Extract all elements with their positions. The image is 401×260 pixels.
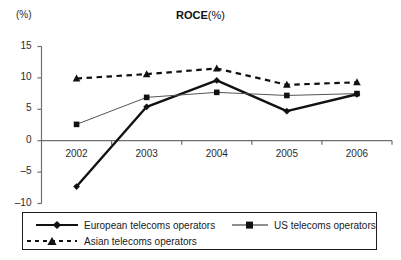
x-tick-label: 2002	[54, 148, 100, 159]
legend-item-us: US telecoms operators	[231, 218, 376, 232]
y-tick-label: –5	[6, 165, 32, 176]
legend-swatch-european-line-diamond-icon	[35, 219, 79, 231]
legend-label-asian: Asian telecoms operators	[84, 236, 197, 247]
plot-area	[0, 0, 401, 212]
data-point-marker	[74, 122, 80, 128]
x-tick-label: 2003	[124, 148, 170, 159]
y-tick-label: 5	[6, 102, 32, 113]
data-point-marker	[354, 91, 360, 97]
data-point-marker	[284, 93, 290, 99]
data-point-marker	[283, 108, 290, 115]
x-tick-label: 2004	[194, 148, 240, 159]
legend-label-us: US telecoms operators	[274, 220, 376, 231]
data-point-marker	[213, 77, 220, 84]
y-tick-label: 0	[6, 134, 32, 145]
legend-item-european: European telecoms operators	[35, 218, 215, 232]
y-tick-label: 10	[6, 71, 32, 82]
data-series	[73, 64, 361, 189]
legend-item-asian: Asian telecoms operators	[25, 234, 197, 248]
x-tick-label: 2006	[334, 148, 380, 159]
legend-label-european: European telecoms operators	[84, 220, 215, 231]
y-tick-label: –10	[6, 197, 32, 208]
legend-swatch-us-line-square-icon	[231, 219, 269, 231]
x-tick-label: 2005	[264, 148, 310, 159]
chart-legend: European telecoms operators US telecoms …	[22, 212, 377, 250]
legend-swatch-asian-dashed-triangle-icon	[25, 235, 79, 247]
data-point-marker	[214, 90, 220, 96]
data-point-marker	[144, 95, 150, 101]
chart-figure: (%) ROCE(%) 151050–5–10 2002200320042005…	[0, 0, 401, 260]
y-tick-label: 15	[6, 40, 32, 51]
